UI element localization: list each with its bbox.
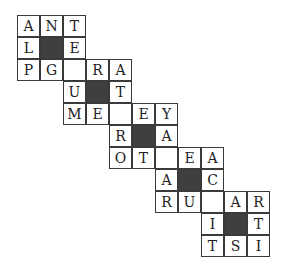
grid-cell: E [86,103,109,125]
grid-cell: T [201,235,224,257]
black-cell [224,213,247,235]
grid-cell: T [109,81,132,103]
grid-cell: L [17,37,40,59]
grid-cell: T [63,15,86,37]
grid-cell: T [132,147,155,169]
grid-cell [201,191,224,213]
grid-cell: C [201,169,224,191]
grid-cell: A [109,59,132,81]
grid-cell: I [201,213,224,235]
grid-cell: M [63,103,86,125]
grid-cell [155,147,178,169]
grid-cell: U [178,191,201,213]
grid-cell: T [247,213,270,235]
grid-cell: A [201,147,224,169]
grid-cell: R [86,59,109,81]
grid-cell: E [178,147,201,169]
black-cell [86,81,109,103]
black-cell [132,125,155,147]
grid-cell: G [40,59,63,81]
grid-cell: A [155,125,178,147]
grid-cell: R [247,191,270,213]
grid-cell: U [63,81,86,103]
grid-cell: O [109,147,132,169]
grid-cell: N [40,15,63,37]
black-cell [178,169,201,191]
grid-cell: I [247,235,270,257]
grid-cell: A [224,191,247,213]
grid-cell: Y [155,103,178,125]
grid-cell [63,59,86,81]
grid-cell: P [17,59,40,81]
grid-cell: A [17,15,40,37]
grid-cell: S [224,235,247,257]
grid-cell: R [109,125,132,147]
grid-cell [109,103,132,125]
grid-cell: E [63,37,86,59]
grid-cell: E [132,103,155,125]
grid-cell: R [155,191,178,213]
grid-cell: A [155,169,178,191]
black-cell [40,37,63,59]
